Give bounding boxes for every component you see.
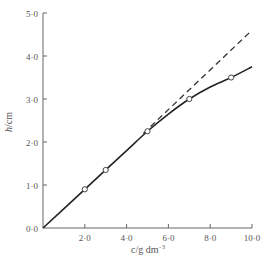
- x-tick-label: 4·0: [121, 233, 133, 243]
- y-tick-label: 4·0: [26, 52, 38, 62]
- y-tick-label: 0·0: [26, 224, 38, 234]
- data-point-marker: [187, 96, 192, 101]
- y-tick-label: 5·0: [26, 9, 38, 19]
- data-point-marker: [145, 129, 150, 134]
- y-tick-label: 3·0: [26, 95, 38, 105]
- y-tick-label: 2·0: [26, 138, 38, 148]
- data-point-marker: [82, 187, 87, 192]
- y-tick-label: 1·0: [26, 181, 38, 191]
- axes: [43, 13, 252, 228]
- x-tick-label: 2·0: [79, 233, 91, 243]
- data-point-marker: [229, 75, 234, 80]
- y-axis-label: h/cm: [3, 112, 14, 132]
- axis-ticks: 0·01·02·03·04·05·02·04·06·08·010·0: [26, 9, 261, 244]
- x-tick-label: 8·0: [204, 233, 216, 243]
- dashed-extrapolation-line: [143, 30, 252, 133]
- x-tick-label: 6·0: [162, 233, 174, 243]
- measured-curve: [43, 67, 252, 228]
- data-point-marker: [103, 167, 108, 172]
- data-series: [43, 30, 252, 228]
- chart: 0·01·02·03·04·05·02·04·06·08·010·0 h/cm …: [0, 0, 267, 261]
- x-axis-label: c/g dm−3: [131, 244, 165, 255]
- x-tick-label: 10·0: [244, 233, 261, 243]
